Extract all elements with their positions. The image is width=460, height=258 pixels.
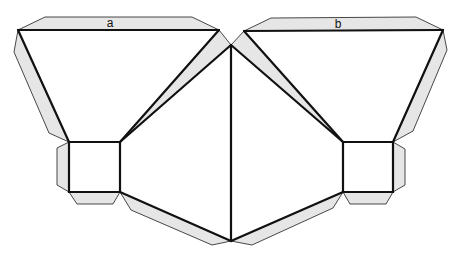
label-b: b xyxy=(335,17,342,31)
edge-b-top xyxy=(244,30,443,31)
face-left-square xyxy=(69,142,120,192)
label-a: a xyxy=(107,16,114,30)
face-right-square xyxy=(343,142,393,192)
paper-net-diagram: a b xyxy=(0,0,460,258)
tab-left-square-bottom xyxy=(69,192,120,204)
tab-a-top xyxy=(18,17,219,30)
tab-left-square-side xyxy=(57,142,69,192)
tab-right-square-side xyxy=(393,142,405,192)
tab-b-top xyxy=(244,17,443,31)
tab-right-square-bottom xyxy=(343,192,393,204)
